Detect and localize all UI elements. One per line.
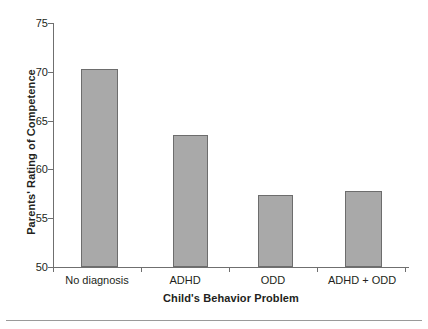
bar-adhd [173,135,208,267]
bar-no-diagnosis [81,69,118,267]
bar-odd [258,195,293,267]
y-tick-mark [48,218,53,219]
y-tick-label: 75 [26,18,48,29]
x-axis-title: Child's Behavior Problem [53,292,409,304]
y-axis-tick-labels: 75 70 65 60 55 50 [22,0,48,329]
y-tick-mark [48,23,53,24]
y-tick-label: 65 [26,116,48,127]
x-tick-label-adhd-plus-odd: ADHD + ODD [317,273,407,287]
x-axis-tick-labels: No diagnosis ADHD ODD ADHD + ODD [53,273,409,289]
y-tick-mark [48,121,53,122]
x-tick-mark [53,267,54,272]
y-axis-line [53,23,54,267]
y-tick-mark [48,72,53,73]
bar-adhd-plus-odd [345,191,382,267]
x-tick-label-adhd: ADHD [141,273,229,287]
y-tick-label: 70 [26,67,48,78]
x-tick-mark [141,267,142,272]
x-tick-label-odd: ODD [229,273,317,287]
x-tick-label-no-diagnosis: No diagnosis [53,273,141,287]
x-axis-line [53,267,409,268]
y-tick-mark [48,169,53,170]
plot-area [53,23,408,267]
y-tick-label: 60 [26,164,48,175]
footer-rule [6,320,422,321]
bar-chart-figure: Parents' Rating of Competence 75 70 65 6… [0,0,428,329]
x-tick-mark [317,267,318,272]
x-tick-mark [229,267,230,272]
y-tick-label: 50 [26,262,48,273]
y-tick-label: 55 [26,213,48,224]
x-tick-mark [405,267,406,272]
